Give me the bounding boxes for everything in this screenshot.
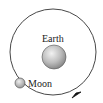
moon-sphere [15,78,25,88]
earth-sphere [42,45,66,69]
earth-label: Earth [42,34,64,44]
moon-label: Moon [28,79,52,89]
orbit-direction-arrow-icon [72,92,81,98]
